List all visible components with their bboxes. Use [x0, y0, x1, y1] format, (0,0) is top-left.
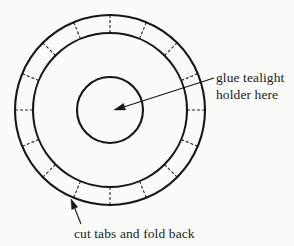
tab-dash-line [43, 43, 56, 56]
tab-dash-line [181, 74, 198, 81]
tab-dash-line [74, 181, 81, 198]
outer-circle [15, 15, 205, 205]
glue-annotation-line-1: glue tealight [216, 70, 284, 87]
middle-circle [33, 33, 187, 187]
tab-dash-line [43, 164, 56, 177]
tab-dash-line [164, 43, 177, 56]
cut-tabs-annotation: cut tabs and fold back [74, 226, 195, 242]
tab-dash-line [74, 22, 81, 39]
cut-leader-arrow [71, 199, 81, 224]
tab-dash-line [139, 22, 146, 39]
glue-annotation-line-2: holder here [216, 87, 284, 104]
glue-tealight-annotation: glue tealight holder here [216, 70, 284, 103]
inner-circle [77, 77, 143, 143]
tab-dash-line [164, 164, 177, 177]
diagram-page: glue tealight holder here cut tabs and f… [0, 0, 294, 246]
tealight-ring-diagram [0, 0, 294, 246]
tab-dash-line [22, 139, 39, 146]
tab-dash-line [139, 181, 146, 198]
tab-dash-line [181, 139, 198, 146]
tab-dash-line [22, 74, 39, 81]
